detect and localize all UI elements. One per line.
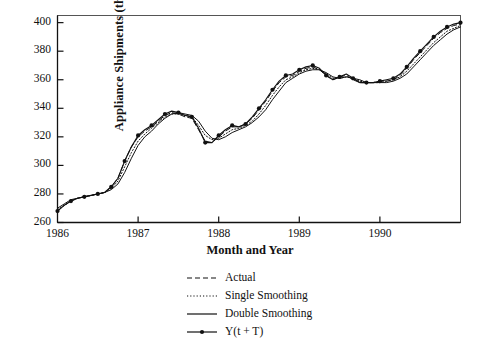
data-point-marker — [190, 115, 194, 119]
legend-item: Single Smoothing — [186, 286, 312, 304]
y-tick-label: 360 — [25, 72, 51, 84]
data-point-marker — [203, 140, 207, 144]
legend-label: Double Smoothing — [220, 304, 312, 322]
data-point-marker — [217, 133, 221, 137]
data-point-marker — [230, 123, 234, 127]
legend-label: Single Smoothing — [220, 286, 308, 304]
x-tick-label: 1986 — [35, 227, 81, 239]
data-point-marker — [338, 75, 342, 79]
x-tick-label: 1990 — [357, 227, 403, 239]
data-point-marker — [364, 81, 368, 85]
y-tick-label: 400 — [25, 15, 51, 27]
data-point-marker — [243, 122, 247, 126]
data-point-marker — [297, 68, 301, 72]
x-tick-label: 1988 — [196, 227, 242, 239]
data-point-marker — [136, 133, 140, 137]
data-point-marker — [149, 123, 153, 127]
y-tick-label: 260 — [25, 215, 51, 227]
data-point-marker — [378, 79, 382, 83]
data-point-marker — [270, 88, 274, 92]
y-tick-label: 280 — [25, 186, 51, 198]
series-line-single-smoothing — [58, 25, 461, 209]
legend-swatch-icon — [186, 304, 220, 322]
y-tick-label: 320 — [25, 129, 51, 141]
x-tick-label: 1987 — [115, 227, 161, 239]
chart-legend: ActualSingle SmoothingDouble SmoothingY(… — [186, 268, 312, 340]
data-point-marker — [82, 195, 86, 199]
y-tick-label: 380 — [25, 43, 51, 55]
legend-item: Double Smoothing — [186, 304, 312, 322]
x-tick-label: 1989 — [276, 227, 322, 239]
data-point-marker — [324, 73, 328, 77]
legend-label: Actual — [220, 268, 256, 286]
y-tick-label: 340 — [25, 100, 51, 112]
legend-swatch-icon — [186, 286, 220, 304]
data-point-marker — [176, 110, 180, 114]
data-point-marker — [418, 49, 422, 53]
legend-item: Y(t + T) — [186, 322, 312, 340]
data-point-marker — [391, 76, 395, 80]
y-tick-label: 300 — [25, 157, 51, 169]
data-point-marker — [351, 76, 355, 80]
data-point-marker — [432, 35, 436, 39]
x-axis-title: Month and Year — [140, 243, 360, 258]
data-point-marker — [284, 73, 288, 77]
legend-item: Actual — [186, 268, 312, 286]
legend-label: Y(t + T) — [220, 322, 263, 340]
data-point-marker — [405, 65, 409, 69]
data-point-marker — [257, 106, 261, 110]
data-point-marker — [109, 185, 113, 189]
data-point-marker — [163, 112, 167, 116]
legend-swatch-icon — [186, 268, 220, 286]
data-point-marker — [311, 63, 315, 67]
chart-figure: Appliance Shipments (thousands) 26028030… — [0, 0, 486, 345]
data-point-marker — [69, 199, 73, 203]
data-point-marker — [96, 192, 100, 196]
data-point-marker — [445, 25, 449, 29]
legend-swatch-icon — [186, 322, 220, 340]
data-point-marker — [458, 21, 462, 25]
data-point-marker — [123, 159, 127, 163]
data-point-marker — [55, 209, 59, 213]
